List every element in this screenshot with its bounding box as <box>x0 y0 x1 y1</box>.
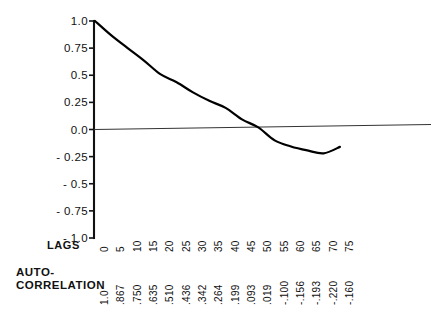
autocorrelation-value: -.220 <box>328 281 339 305</box>
autocorrelation-value: .750 <box>132 284 143 305</box>
autocorrelation-value: .019 <box>262 284 273 305</box>
autocorrelation-value: .436 <box>181 284 192 305</box>
autocorrelation-value: .867 <box>115 284 126 305</box>
autocorrelation-value: .093 <box>246 284 257 305</box>
x-axis-tick-label: 75 <box>344 240 355 252</box>
autocorrelation-value: -.156 <box>295 281 306 305</box>
x-axis-tick-label: 50 <box>262 240 273 252</box>
x-axis-tick-label: 25 <box>181 240 192 252</box>
y-axis-label: 0.0 <box>14 124 88 136</box>
y-axis-label: 0.5 <box>14 69 88 81</box>
zero-reference-line <box>94 125 431 130</box>
x-axis-tick-label: 5 <box>115 246 126 252</box>
y-axis-label: 1.0 <box>14 15 88 27</box>
x-axis-tick-label: 60 <box>295 240 306 252</box>
x-axis-tick-label: 10 <box>132 240 143 252</box>
autocorrelation-value: .635 <box>148 284 159 305</box>
autocorrelation-value: -.100 <box>279 281 290 305</box>
y-axis-label: - 0.75 <box>14 205 88 217</box>
x-axis-tick-label: 65 <box>311 240 322 252</box>
autocorrelation-curve <box>95 21 340 153</box>
x-axis-tick-label: 0 <box>99 246 110 252</box>
ac-caption-line-1: AUTO- <box>16 266 105 279</box>
y-axis-label: 0.25 <box>14 96 88 108</box>
autocorrelation-value: .199 <box>230 284 241 305</box>
autocorrelation-value: -.193 <box>311 281 322 305</box>
autocorrelation-value: .510 <box>164 284 175 305</box>
x-axis-tick-label: 70 <box>328 240 339 252</box>
ac-caption-line-2: CORRELATION <box>16 279 105 292</box>
autocorrelation-chart: 1.00.750.50.250.0- 0.25- 0.5- 0.75- 1.0 … <box>0 0 440 315</box>
x-axis-tick-label: 35 <box>213 240 224 252</box>
autocorrelation-value: 1.0 <box>99 290 110 305</box>
y-axis-label: - 0.25 <box>14 151 88 163</box>
y-axis-label: 0.75 <box>14 42 88 54</box>
x-axis-title: LAGS <box>47 239 80 251</box>
x-axis-tick-label: 55 <box>279 240 290 252</box>
x-axis-tick-label: 45 <box>246 240 257 252</box>
autocorrelation-value: .342 <box>197 284 208 305</box>
autocorrelation-value: -.160 <box>344 281 355 305</box>
autocorrelation-axis-title: AUTO- CORRELATION <box>16 266 105 292</box>
x-axis-tick-label: 20 <box>164 240 175 252</box>
autocorrelation-value: .264 <box>213 284 224 305</box>
y-axis-label: - 0.5 <box>14 178 88 190</box>
x-axis-tick-label: 30 <box>197 240 208 252</box>
x-axis-tick-label: 40 <box>230 240 241 252</box>
x-axis-tick-label: 15 <box>148 240 159 252</box>
